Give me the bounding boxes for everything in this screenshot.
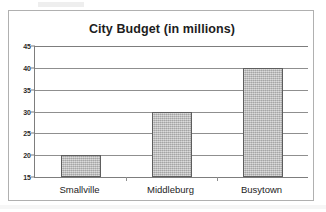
- y-axis-tickmark: [31, 155, 35, 156]
- y-axis-tick-label: 30: [23, 108, 31, 115]
- plot-area: 45403530252015: [34, 46, 308, 178]
- y-axis-tick-label: 20: [23, 152, 31, 159]
- x-axis-category-label: Busytown: [216, 184, 307, 195]
- y-axis-tickmark: [31, 111, 35, 112]
- y-axis-tick-label: 45: [23, 43, 31, 50]
- y-axis-tickmark: [31, 133, 35, 134]
- y-axis-tick-label: 25: [23, 130, 31, 137]
- y-axis-tick-label: 35: [23, 86, 31, 93]
- bar: [152, 112, 192, 178]
- scanned-page-canvas: City Budget (in millions) 45403530252015…: [0, 0, 326, 212]
- y-axis-tickmark: [31, 67, 35, 68]
- bar: [61, 155, 101, 177]
- x-axis-tickmark: [126, 177, 127, 181]
- chart-title: City Budget (in millions): [9, 22, 315, 36]
- y-axis-tickmark: [31, 89, 35, 90]
- x-axis-tickmark: [217, 177, 218, 181]
- gridline: [35, 46, 308, 47]
- scan-artifact-bottom: [0, 205, 326, 209]
- x-axis-category-label: Smallville: [34, 184, 125, 195]
- x-axis-category-label: Middleburg: [125, 184, 216, 195]
- y-axis-tickmark: [31, 177, 35, 178]
- y-axis-tick-label: 15: [23, 174, 31, 181]
- bar: [243, 68, 283, 177]
- scan-artifact-top: [38, 2, 84, 7]
- chart-frame: City Budget (in millions) 45403530252015…: [8, 10, 314, 201]
- y-axis-tick-label: 40: [23, 64, 31, 71]
- y-axis-tickmark: [31, 46, 35, 47]
